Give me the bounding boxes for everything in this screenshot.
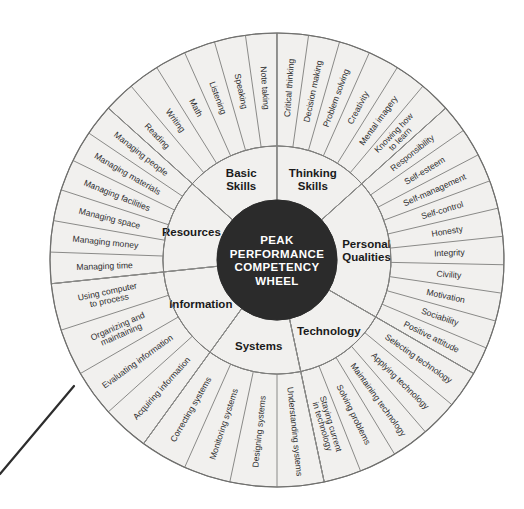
- category-label-basic-skills: Basic: [226, 167, 257, 179]
- skill-label-wrap: Civility: [436, 268, 462, 280]
- hub-label-line: PERFORMANCE: [230, 248, 325, 260]
- category-label-personal-qualities: Personal: [342, 238, 391, 250]
- category-label-thinking-skills: Thinking: [289, 167, 337, 179]
- category-label-thinking-skills: Skills: [298, 180, 328, 192]
- hub-label-line: PEAK: [260, 234, 294, 246]
- stray-diagonal-line: [0, 386, 74, 474]
- skill-label-wrap: Managing time: [76, 260, 133, 272]
- category-label-group-basic-skills: BasicSkills: [226, 167, 257, 192]
- skill-label: Integrity: [434, 247, 466, 258]
- skill-label-wrap: Integrity: [434, 247, 466, 258]
- hub-label-line: WHEEL: [255, 275, 299, 287]
- category-label-group-systems: Systems: [235, 340, 282, 352]
- hub-circle[interactable]: [217, 200, 337, 320]
- category-label-group-personal-qualities: PersonalQualities: [342, 238, 391, 263]
- skill-label: Managing time: [76, 260, 133, 272]
- category-label-personal-qualities: Qualities: [342, 251, 391, 263]
- category-label-information: Information: [169, 298, 232, 310]
- category-label-resources: Resources: [162, 226, 221, 238]
- category-label-group-resources: Resources: [162, 226, 221, 238]
- category-label-systems: Systems: [235, 340, 282, 352]
- wheel-svg-canvas: BasicSkillsThinkingSkillsPersonalQualiti…: [0, 0, 524, 509]
- category-label-basic-skills: Skills: [226, 180, 256, 192]
- category-label-group-technology: Technology: [297, 325, 361, 337]
- category-label-group-information: Information: [169, 298, 232, 310]
- hub-label-line: COMPETENCY: [234, 261, 319, 273]
- category-label-technology: Technology: [297, 325, 361, 337]
- competency-wheel-diagram: BasicSkillsThinkingSkillsPersonalQualiti…: [0, 0, 524, 509]
- skill-label: Civility: [436, 268, 462, 280]
